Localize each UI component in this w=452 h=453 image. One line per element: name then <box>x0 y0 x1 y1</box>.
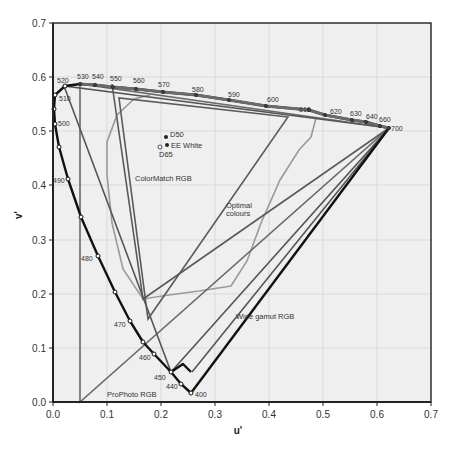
svg-text:500: 500 <box>58 120 70 127</box>
svg-text:510: 510 <box>59 95 71 102</box>
prophoto-rgb-label: ProPhoto RGB <box>107 390 157 399</box>
svg-text:630: 630 <box>350 110 362 117</box>
svg-text:520: 520 <box>57 77 69 84</box>
svg-text:660: 660 <box>379 116 391 123</box>
x-tick-labels: 0.0 0.1 0.2 0.3 0.4 0.5 0.6 0.7 <box>46 409 438 420</box>
optimal-colours-label-2: colours <box>226 209 250 218</box>
svg-text:0.4: 0.4 <box>262 409 276 420</box>
svg-text:640: 640 <box>366 113 378 120</box>
svg-text:560: 560 <box>133 77 145 84</box>
svg-text:440: 440 <box>166 383 178 390</box>
svg-text:0.0: 0.0 <box>32 397 46 408</box>
svg-text:480: 480 <box>81 255 93 262</box>
svg-text:0.4: 0.4 <box>32 180 46 191</box>
svg-text:0.7: 0.7 <box>424 409 438 420</box>
d65-label: D65 <box>159 150 173 159</box>
svg-text:470: 470 <box>114 321 126 328</box>
y-tick-labels: 0.0 0.1 0.2 0.3 0.4 0.5 0.6 0.7 <box>32 18 46 408</box>
svg-text:0.2: 0.2 <box>154 409 168 420</box>
svg-text:0.6: 0.6 <box>370 409 384 420</box>
svg-text:0.1: 0.1 <box>100 409 114 420</box>
svg-text:400: 400 <box>195 391 207 398</box>
d50-marker <box>164 135 168 139</box>
ee-white-marker <box>165 143 169 147</box>
svg-text:0.0: 0.0 <box>46 409 60 420</box>
svg-text:540: 540 <box>92 73 104 80</box>
wide-gamut-rgb-label: Wide gamut RGB <box>236 312 294 321</box>
cie-uv-chromaticity-chart: 400 440 450 460 470 480 490 500 510 520 … <box>0 0 452 453</box>
svg-text:460: 460 <box>139 354 151 361</box>
svg-text:0.6: 0.6 <box>32 72 46 83</box>
svg-text:700: 700 <box>391 125 403 132</box>
svg-text:0.3: 0.3 <box>32 235 46 246</box>
svg-text:610: 610 <box>299 106 311 113</box>
svg-text:600: 600 <box>267 96 279 103</box>
svg-text:530: 530 <box>77 73 89 80</box>
ee-white-label: EE White <box>171 141 202 150</box>
svg-text:570: 570 <box>158 81 170 88</box>
svg-text:0.1: 0.1 <box>32 343 46 354</box>
svg-text:0.3: 0.3 <box>208 409 222 420</box>
y-axis-label: v' <box>13 211 24 219</box>
d65-marker <box>158 145 162 149</box>
x-axis-label: u' <box>234 425 243 436</box>
svg-text:580: 580 <box>192 86 204 93</box>
svg-text:550: 550 <box>110 75 122 82</box>
svg-text:450: 450 <box>154 374 166 381</box>
svg-text:620: 620 <box>330 108 342 115</box>
colormatch-rgb-label: ColorMatch RGB <box>135 174 192 183</box>
svg-text:0.5: 0.5 <box>32 126 46 137</box>
svg-text:590: 590 <box>228 91 240 98</box>
svg-text:0.5: 0.5 <box>316 409 330 420</box>
svg-text:490: 490 <box>53 177 65 184</box>
d50-label: D50 <box>170 130 184 139</box>
svg-text:0.7: 0.7 <box>32 18 46 29</box>
svg-text:0.2: 0.2 <box>32 289 46 300</box>
